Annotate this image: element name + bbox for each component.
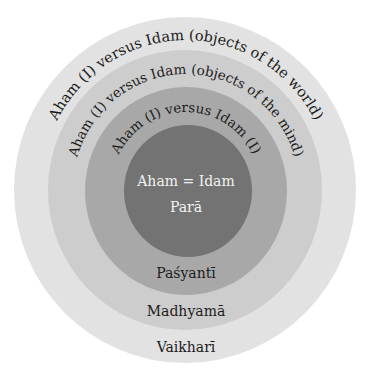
label-vaikhari: Vaikharī xyxy=(156,339,216,355)
ring-para xyxy=(124,125,252,257)
speech-levels-diagram: Aham (I) versus Idam (objects of the wor… xyxy=(0,0,370,375)
center-equation: Aham = Idam xyxy=(136,173,235,189)
label-madhyama: Madhyamā xyxy=(147,303,226,319)
label-para: Parā xyxy=(170,199,202,215)
label-pasyanti: Paśyantī xyxy=(156,265,216,281)
